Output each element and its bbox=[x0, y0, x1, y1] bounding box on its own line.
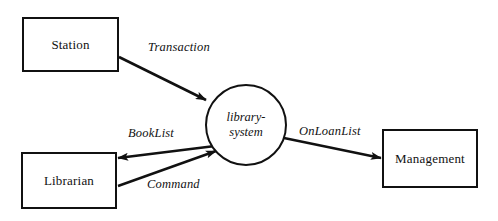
node-management: Management bbox=[382, 129, 478, 188]
flow-label-command: Command bbox=[147, 177, 200, 192]
node-librarian: Librarian bbox=[21, 152, 117, 209]
flow-label-transaction: Transaction bbox=[148, 40, 210, 55]
flow-arrow-transaction bbox=[119, 57, 206, 100]
flow-label-onloanlist: OnLoanList bbox=[299, 124, 361, 139]
node-station-label: Station bbox=[51, 37, 89, 53]
node-station: Station bbox=[22, 17, 119, 72]
node-library-system: library- system bbox=[205, 84, 287, 166]
diagram-canvas: Station Librarian Management library- sy… bbox=[0, 0, 498, 221]
flow-arrow-onloanlist bbox=[284, 138, 381, 158]
node-management-label: Management bbox=[395, 151, 465, 167]
flow-label-booklist: BookList bbox=[128, 126, 174, 141]
node-librarian-label: Librarian bbox=[44, 173, 94, 189]
node-library-system-label-line1: library- bbox=[227, 110, 266, 125]
node-library-system-label-line2: system bbox=[229, 125, 262, 140]
